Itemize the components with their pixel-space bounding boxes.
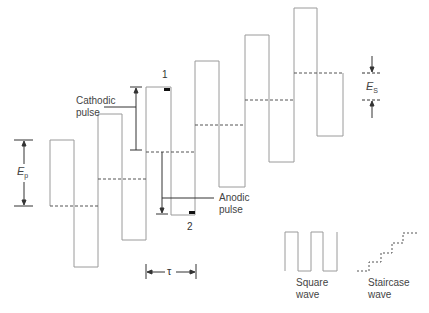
cathodic-label-line1: Cathodic	[76, 95, 115, 107]
pulse-amplitude-label: Ep	[17, 165, 28, 179]
period-label: τ	[167, 265, 171, 277]
square-wave-label: Square wave	[296, 277, 328, 301]
anodic-label-line2: pulse	[219, 204, 250, 216]
staircase-label-line2: wave	[368, 289, 410, 301]
anodic-pulse-label: Anodic pulse	[219, 192, 250, 216]
square-wave-staircase-waveform	[50, 8, 343, 267]
anodic-pulse-bracket	[156, 152, 214, 214]
staircase-wave-inset	[357, 233, 418, 271]
sample-marker-2	[189, 211, 195, 214]
point-2-label: 2	[187, 221, 193, 232]
es-subscript: S	[373, 87, 378, 94]
staircase-label-line1: Staircase	[368, 277, 410, 289]
step-height-label: ES	[366, 80, 378, 94]
staircase-levels	[50, 73, 343, 206]
cathodic-label-line2: pulse	[76, 107, 115, 119]
square-wave-diagram	[0, 0, 429, 313]
ep-subscript: p	[24, 172, 28, 179]
square-wave-inset	[285, 232, 337, 271]
point-1-label: 1	[162, 69, 168, 80]
anodic-label-line1: Anodic	[219, 192, 250, 204]
sample-marker-1	[164, 88, 170, 91]
cathodic-pulse-label: Cathodic pulse	[76, 95, 115, 119]
staircase-wave-label: Staircase wave	[368, 277, 410, 301]
square-label-line1: Square	[296, 277, 328, 289]
square-label-line2: wave	[296, 289, 328, 301]
